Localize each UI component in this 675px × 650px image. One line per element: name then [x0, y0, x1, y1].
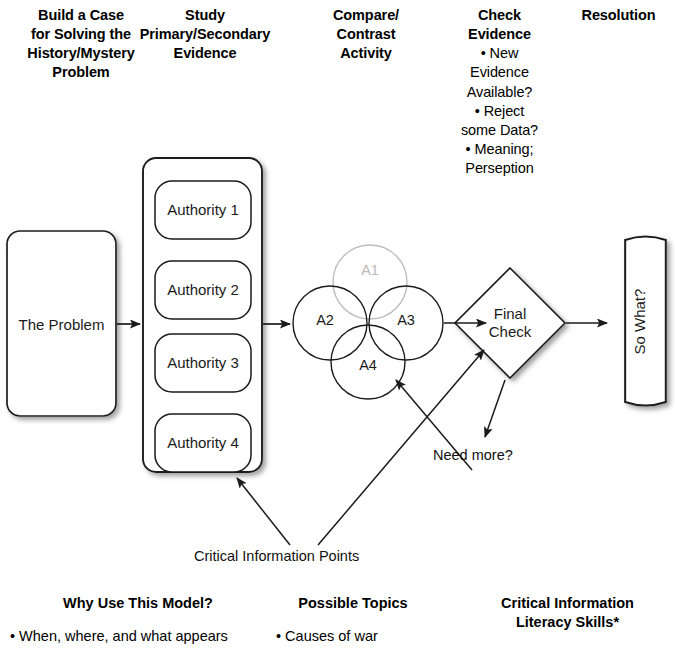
venn-circle-a1[interactable] — [333, 245, 407, 319]
venn-label-a4: A4 — [348, 357, 388, 373]
footer-heading-line: Literacy Skills* — [460, 613, 675, 632]
final-check-label-line: Final — [470, 305, 550, 323]
final-check-label: Final Check — [470, 305, 550, 342]
footer-heading-possible-topics: Possible Topics — [268, 594, 438, 613]
footer-heading-line: Critical Information — [460, 594, 675, 613]
critical-information-points-annotation: Critical Information Points — [194, 548, 359, 564]
authority-label-2: Authority 2 — [155, 281, 251, 299]
flowchart-page: Build a Case for Solving the History/Mys… — [0, 0, 675, 650]
footer-heading-critical-information-literacy-skills: Critical Information Literacy Skills* — [460, 594, 675, 632]
venn-label-a3: A3 — [386, 312, 426, 328]
authority-label-3: Authority 3 — [155, 354, 251, 372]
authority-label-4: Authority 4 — [155, 434, 251, 452]
so-what-label: So What? — [631, 293, 648, 355]
need-more-annotation: Need more? — [433, 447, 513, 463]
footer-item-possible-topics: • Causes of war — [276, 627, 378, 646]
venn-label-a1: A1 — [350, 262, 390, 278]
connector-final-check-to-need-more — [485, 380, 505, 437]
venn-label-a2: A2 — [305, 312, 345, 328]
authority-label-1: Authority 1 — [155, 201, 251, 219]
final-check-label-line: Check — [470, 323, 550, 341]
connector-critical-points-to-authorities — [237, 478, 290, 545]
footer-heading-why-use-this-model: Why Use This Model? — [10, 594, 266, 613]
footer-item-why-use-this-model: • When, where, and what appears — [10, 627, 228, 646]
problem-box-label: The Problem — [7, 316, 116, 334]
